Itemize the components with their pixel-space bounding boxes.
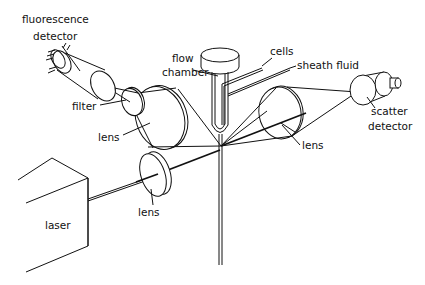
label-sheath-fluid: sheath fluid (297, 59, 359, 71)
label-lens-left: lens (98, 131, 120, 143)
label-lens-bottom: lens (138, 206, 160, 218)
label-chamber: chamber (162, 66, 209, 78)
scatter-detector (350, 72, 401, 108)
label-laser: laser (45, 219, 71, 231)
label-scatter: scatter (371, 105, 408, 117)
flow-chamber (201, 48, 239, 265)
laser-box (18, 158, 88, 272)
label-lens-right: lens (302, 139, 324, 151)
fluorescence-lens (127, 79, 221, 156)
label-fluorescence: fluorescence (22, 13, 89, 25)
flow-cytometer-diagram: fluorescence detector filter lens flow c… (0, 0, 425, 285)
label-fluorescence-detector: detector (33, 30, 78, 42)
focusing-lens (135, 148, 176, 205)
label-cells: cells (270, 45, 294, 57)
scatter-lens (221, 83, 357, 146)
label-flow: flow (172, 52, 194, 64)
label-scatter-detector: detector (368, 120, 413, 132)
label-filter: filter (72, 100, 97, 112)
fluorescence-detector (46, 43, 121, 105)
